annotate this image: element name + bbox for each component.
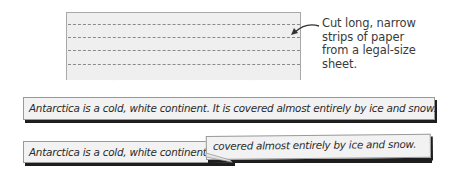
strip-text: covered almost entirely by ice and snow.	[213, 138, 416, 152]
callout-line-3: from a legal-size	[322, 44, 456, 58]
callout-line-2: strips of paper	[322, 31, 456, 45]
strip-text: Antarctica is a cold, white continent	[29, 146, 207, 158]
callout-line-1: Cut long, narrow	[322, 17, 456, 31]
curved-arrow-icon	[286, 20, 322, 40]
sentence-strip-folded-part: covered almost entirely by ice and snow.	[206, 134, 431, 160]
callout-line-4: sheet.	[322, 58, 456, 72]
torn-edge	[66, 74, 301, 82]
cut-line-2	[68, 37, 300, 38]
strip-text: Antarctica is a cold, white continent. I…	[29, 102, 437, 114]
cut-line-3	[68, 50, 300, 51]
callout-text: Cut long, narrow strips of paper from a …	[322, 17, 456, 71]
sentence-strip-full: Antarctica is a cold, white continent. I…	[23, 97, 435, 120]
sentence-strip-left-part: Antarctica is a cold, white continent	[23, 141, 233, 163]
cut-line-1	[68, 24, 300, 25]
cut-line-4	[68, 64, 300, 65]
paper-sheet	[66, 12, 301, 80]
fold-corner	[204, 153, 234, 163]
